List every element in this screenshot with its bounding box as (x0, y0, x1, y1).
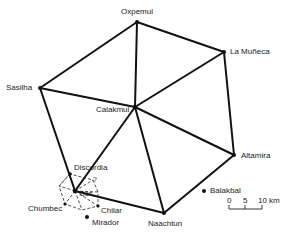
site-label-balakbal: Balakbal (210, 187, 241, 195)
scale-tick-10km: 10 km (258, 197, 280, 205)
scale-tick-5: 5 (243, 197, 247, 205)
site-network-diagram: ? Oxpemul La Muñeca Sasilha Calakmul Alt… (0, 0, 288, 235)
site-label-center: Dos (80, 190, 92, 197)
site-label-sasilha: Sasilha (6, 84, 32, 92)
site-label-chilar: Chilar (101, 207, 122, 215)
site-label-altamira: Altamira (241, 152, 270, 160)
site-label-discordia: Discordia (74, 164, 107, 172)
site-label-oxpemul: Oxpemul (121, 8, 153, 16)
site-label-naachtun: Naachtun (148, 220, 182, 228)
site-label-mirador: Mirador (92, 219, 119, 227)
site-label-la-muneca: La Muñeca (230, 48, 270, 56)
svg-text:?: ? (93, 176, 97, 183)
site-label-calakmul: Calakmul (96, 106, 129, 114)
scale-tick-0: 0 (227, 197, 231, 205)
scale-bar (229, 205, 262, 209)
site-label-chumbec: Chumbec (28, 205, 62, 213)
